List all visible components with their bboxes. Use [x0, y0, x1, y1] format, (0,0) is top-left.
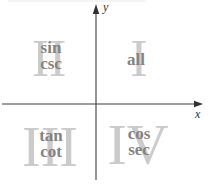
x-axis-label: x: [195, 108, 200, 120]
quadrant-4-functions: cos sec: [128, 126, 151, 158]
quadrant-4-line-2: sec: [128, 142, 151, 158]
quadrant-3-line-2: cot: [39, 144, 63, 160]
y-axis-arrow-icon: [93, 4, 99, 14]
quadrant-1-functions: all: [127, 52, 145, 68]
quadrant-1-line-1: all: [127, 52, 145, 68]
quadrant-3-functions: tan cot: [39, 128, 63, 160]
quadrant-2-functions: sin csc: [40, 40, 62, 72]
quadrant-trig-sign-diagram: y x I all II sin csc III tan cot IV cos …: [0, 0, 213, 184]
y-axis-label: y: [103, 1, 108, 13]
quadrant-2-line-2: csc: [40, 56, 62, 72]
